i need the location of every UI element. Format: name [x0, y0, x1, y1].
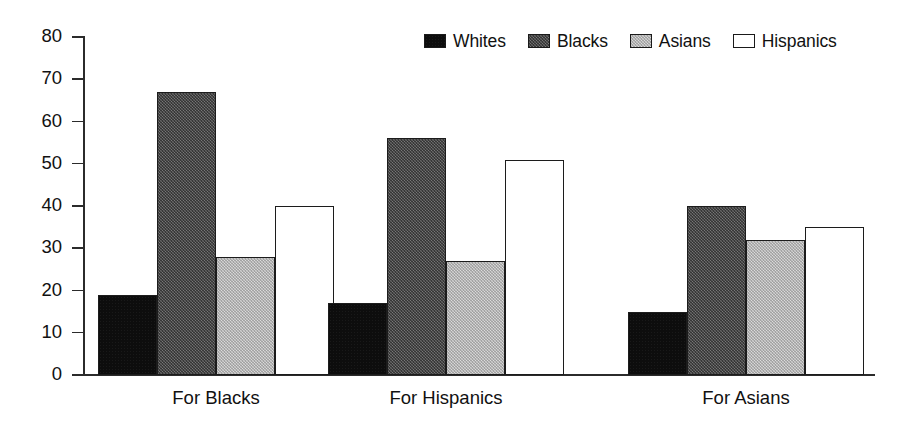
y-tick-label-wrap: 0 — [10, 365, 62, 384]
bar-hispanics-for-hispanics — [505, 160, 564, 375]
y-tick-label: 20 — [16, 281, 62, 300]
bar-hispanics-for-blacks — [275, 206, 334, 375]
y-tick-label: 60 — [16, 112, 62, 131]
bar-hispanics-for-asians — [805, 227, 864, 375]
y-tick-label: 70 — [16, 69, 62, 88]
bar-blacks-for-blacks — [157, 92, 216, 375]
plot-area — [83, 37, 875, 375]
y-tick-label-wrap: 10 — [10, 323, 62, 342]
y-axis-ticks: 01020304050607080 — [0, 0, 84, 434]
y-tick-label: 30 — [16, 238, 62, 257]
bar-chart: Whites Blacks Asians Hispanics 010203040… — [0, 0, 913, 434]
bar-asians-for-asians — [746, 240, 805, 375]
bar-asians-for-hispanics — [446, 261, 505, 375]
y-tick-label-wrap: 50 — [10, 154, 62, 173]
y-tick-label-wrap: 30 — [10, 238, 62, 257]
bar-whites-for-asians — [628, 312, 687, 375]
y-tick-label: 40 — [16, 196, 62, 215]
y-tick-label-wrap: 60 — [10, 112, 62, 131]
bar-whites-for-blacks — [98, 295, 157, 375]
y-tick-label-wrap: 70 — [10, 69, 62, 88]
y-tick-label: 10 — [16, 323, 62, 342]
y-tick-label-wrap: 80 — [10, 27, 62, 46]
bar-whites-for-hispanics — [328, 303, 387, 375]
y-tick-label: 80 — [16, 27, 62, 46]
x-category-label: For Asians — [646, 388, 846, 408]
y-tick-label-wrap: 20 — [10, 281, 62, 300]
y-tick-label-wrap: 40 — [10, 196, 62, 215]
bar-asians-for-blacks — [216, 257, 275, 375]
x-category-label: For Hispanics — [346, 388, 546, 408]
x-category-label: For Blacks — [116, 388, 316, 408]
bar-blacks-for-asians — [687, 206, 746, 375]
y-tick-label: 0 — [16, 365, 62, 384]
bar-blacks-for-hispanics — [387, 138, 446, 375]
y-tick-label: 50 — [16, 154, 62, 173]
